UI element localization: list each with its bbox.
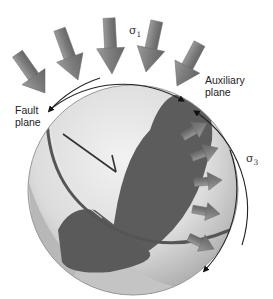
auxiliary-plane-label-line1: Auxiliary [205,74,245,86]
fault-plane-label-line1: Fault [15,104,41,116]
fault-plane-solution-diagram [0,0,273,299]
fault-plane-label: Fault plane [15,104,41,128]
fault-plane-label-line2: plane [15,116,41,128]
auxiliary-plane-label: Auxiliary plane [205,74,245,98]
auxiliary-plane-label-line2: plane [205,86,245,98]
sigma3-label: σ3 [246,152,258,167]
focal-sphere [28,85,238,299]
sigma1-label: σ1 [129,24,141,39]
